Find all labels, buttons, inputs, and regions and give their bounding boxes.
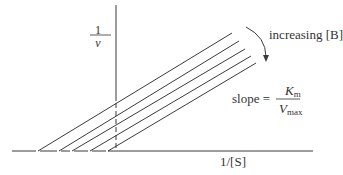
- lineweaver-burk-diagram: 1 v increasing [B] slope = Km Vmax 1/[S]: [0, 0, 343, 175]
- slope-formula: slope = Km Vmax: [232, 83, 303, 117]
- x-axis-label: 1/[S]: [220, 154, 246, 169]
- slope-prefix: slope =: [232, 91, 270, 106]
- curved-arrow-icon: [246, 27, 266, 57]
- y-axis-label: 1 v: [90, 23, 111, 50]
- arrowhead-icon: [263, 55, 269, 62]
- plot-line-3: [72, 49, 245, 151]
- slope-denominator: Vmax: [279, 101, 303, 117]
- y-axis-label-denominator: v: [95, 36, 101, 50]
- reciprocal-plot-lines: [38, 33, 256, 151]
- plot-line-2: [59, 41, 239, 151]
- plot-line-1: [38, 33, 232, 151]
- slope-numerator: Km: [284, 83, 301, 99]
- arrow-annotation: increasing [B]: [269, 27, 343, 42]
